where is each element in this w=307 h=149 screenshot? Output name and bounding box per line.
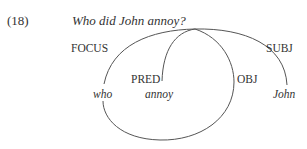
diagram-canvas: (18) Who did John annoy? FOCUS SUBJ PRED… (0, 0, 307, 149)
word-annoy: annoy (145, 89, 173, 101)
example-sentence: Who did John annoy? (72, 14, 186, 27)
pred-label: PRED (131, 74, 160, 86)
pred-arc (162, 29, 195, 81)
example-number: (18) (7, 14, 29, 27)
obj-label: OBJ (237, 74, 257, 86)
word-who: who (93, 89, 112, 101)
obj-arc (103, 29, 234, 140)
word-john: John (273, 89, 295, 101)
subj-label: SUBJ (266, 43, 293, 55)
focus-label: FOCUS (71, 43, 108, 55)
